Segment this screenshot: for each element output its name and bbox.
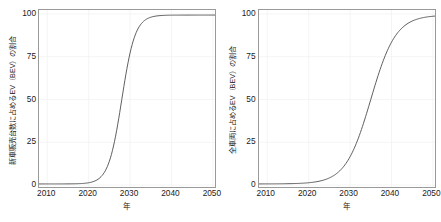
- plot-area: [38, 9, 216, 188]
- x-tick-2020: 2020: [78, 188, 96, 198]
- y-tick-50: 50: [14, 94, 36, 104]
- y-tick-100: 100: [234, 8, 256, 18]
- x-tick-2050: 2050: [203, 188, 221, 198]
- x-tick-2020: 2020: [298, 188, 316, 198]
- y-tick-50: 50: [234, 94, 256, 104]
- x-tick-2040: 2040: [381, 188, 399, 198]
- y-tick-75: 75: [14, 51, 36, 61]
- chart-panel-new-vehicle-sales: 新車販売台数に占めるEV（BEV）の割合 0 25 50 75 100: [0, 0, 220, 222]
- plot-area: [258, 9, 436, 188]
- x-tick-2010: 2010: [37, 188, 55, 198]
- x-axis-label: 年: [38, 200, 216, 211]
- plot-svg: [39, 10, 216, 188]
- data-line-bev-fleet: [259, 16, 436, 184]
- x-tick-2050: 2050: [422, 188, 440, 198]
- grid-lines: [39, 10, 216, 188]
- x-axis-tick-labels: 2010 2020 2030 2040 2050: [0, 188, 220, 200]
- x-axis-tick-labels: 2010 2020 2030 2040 2050: [220, 188, 440, 200]
- chart-panel-total-fleet: 全車両に占めるEV（BEV）の割合 0 25 50 75 100: [220, 0, 440, 222]
- y-tick-25: 25: [234, 136, 256, 146]
- x-tick-2010: 2010: [257, 188, 275, 198]
- x-axis-label: 年: [258, 200, 436, 211]
- y-tick-75: 75: [234, 51, 256, 61]
- y-tick-25: 25: [14, 136, 36, 146]
- x-tick-2030: 2030: [339, 188, 357, 198]
- x-tick-2030: 2030: [120, 188, 138, 198]
- y-tick-100: 100: [14, 8, 36, 18]
- x-tick-2040: 2040: [161, 188, 179, 198]
- plot-svg: [259, 10, 436, 188]
